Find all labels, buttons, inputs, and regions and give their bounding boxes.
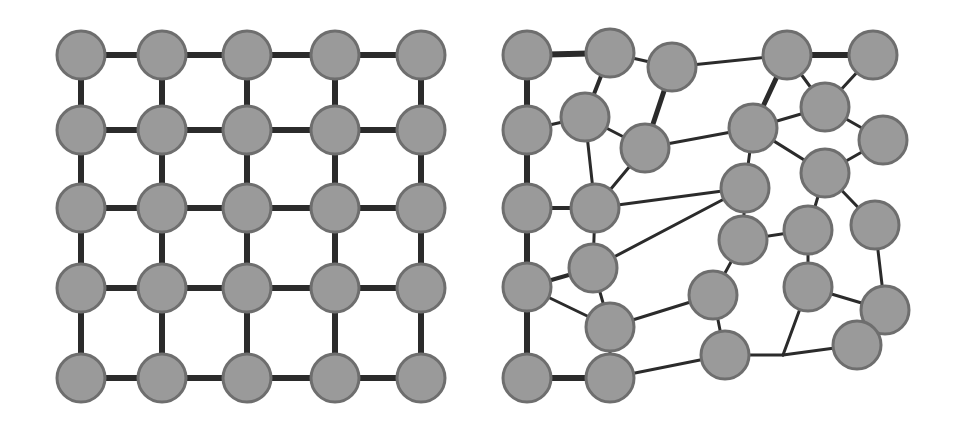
graph-node xyxy=(223,264,271,312)
graph-node xyxy=(833,321,881,369)
graph-node xyxy=(621,124,669,172)
graph-node xyxy=(586,29,634,77)
graph-node xyxy=(503,106,551,154)
graph-node xyxy=(57,264,105,312)
graph-node xyxy=(138,31,186,79)
graph-node xyxy=(311,106,359,154)
graph-node xyxy=(561,93,609,141)
graph-node xyxy=(849,31,897,79)
graph-node xyxy=(569,244,617,292)
graph-node xyxy=(138,264,186,312)
graph-node xyxy=(223,106,271,154)
graph-node xyxy=(851,201,899,249)
graph-node xyxy=(138,354,186,402)
graph-node xyxy=(648,43,696,91)
graph-node xyxy=(57,31,105,79)
graph-node xyxy=(801,149,849,197)
graph-node xyxy=(397,184,445,232)
graph-node xyxy=(311,184,359,232)
graph-node xyxy=(311,264,359,312)
graph-node xyxy=(763,31,811,79)
regular-grid-graph xyxy=(57,31,445,402)
graph-node xyxy=(57,106,105,154)
graph-node xyxy=(689,271,737,319)
graph-node xyxy=(138,184,186,232)
graph-node xyxy=(503,354,551,402)
graph-node xyxy=(784,263,832,311)
graph-node xyxy=(721,164,769,212)
graph-node xyxy=(397,106,445,154)
graph-node xyxy=(859,116,907,164)
graph-node xyxy=(223,31,271,79)
graph-node xyxy=(729,104,777,152)
graph-node xyxy=(503,184,551,232)
graph-node xyxy=(397,31,445,79)
graph-node xyxy=(223,184,271,232)
graph-node xyxy=(801,83,849,131)
graph-node xyxy=(571,184,619,232)
graph-node xyxy=(586,354,634,402)
irregular-nodes xyxy=(503,29,909,402)
graph-node xyxy=(223,354,271,402)
graph-node xyxy=(503,263,551,311)
perturbed-irregular-graph xyxy=(503,29,909,402)
graph-node xyxy=(701,331,749,379)
graph-node xyxy=(311,354,359,402)
graph-node xyxy=(397,354,445,402)
graph-node xyxy=(503,31,551,79)
graph-node xyxy=(311,31,359,79)
graph-node xyxy=(57,184,105,232)
graph-node xyxy=(784,206,832,254)
graph-node xyxy=(57,354,105,402)
graph-diagram-canvas xyxy=(0,0,961,428)
graph-node xyxy=(138,106,186,154)
graph-node xyxy=(397,264,445,312)
graph-node xyxy=(719,216,767,264)
grid-nodes xyxy=(57,31,445,402)
graph-node xyxy=(586,303,634,351)
